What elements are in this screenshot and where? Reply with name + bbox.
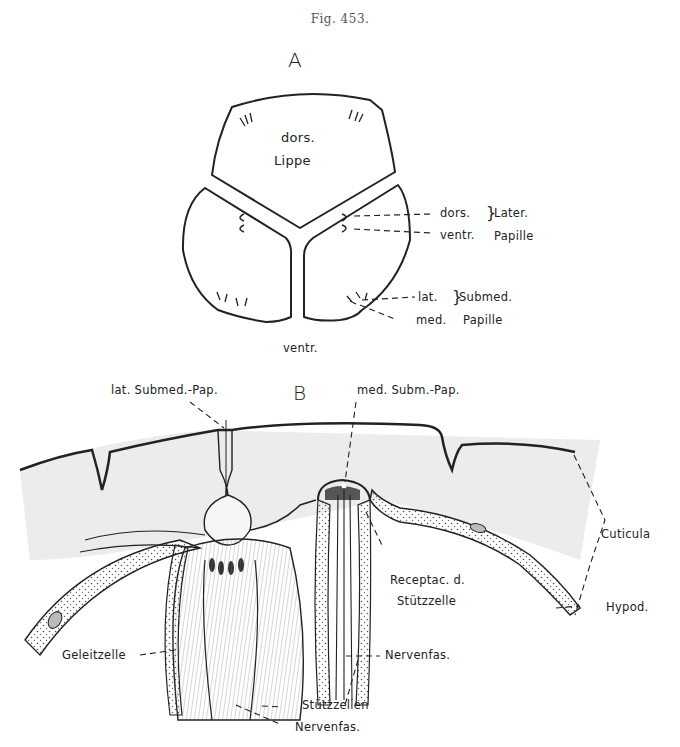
hypod-label: Hypod. [606,600,649,614]
lippe-label: Lippe [274,153,311,168]
submed-annotation: Submed. [459,290,512,304]
med-annotation: med. [416,313,446,327]
lat-annotation: lat. [418,290,438,304]
panel-a-lips [183,94,432,322]
receptac-label-2: Stützzelle [397,594,456,608]
dorsal-label: dors. [281,130,315,145]
stutzzellen-label: Stützzellen [302,698,369,712]
geleitzelle-label: Geleitzelle [62,648,126,662]
lat-submed-pap-label: lat. Submed.-Pap. [111,383,218,397]
papille-annotation-2: Papille [463,313,503,327]
diagram-drawing [0,0,680,747]
cuticula-label: Cuticula [601,527,650,541]
ventral-label: ventr. [283,341,318,355]
panel-b-section [20,402,605,725]
nervenfas-bottom-label: Nervenfas. [295,720,360,734]
right-lip [304,185,410,321]
papille-annotation-1: Papille [494,229,534,243]
dors-annotation: dors. [440,206,470,220]
figure-453: Fig. 453. A B [0,0,680,747]
later-annotation: Later. [494,206,528,220]
med-subm-pap-label: med. Subm.-Pap. [357,383,460,397]
nervenfas-right-label: Nervenfas. [385,648,450,662]
receptac-label-1: Receptac. d. [390,573,465,587]
ventr-annotation: ventr. [440,228,475,242]
